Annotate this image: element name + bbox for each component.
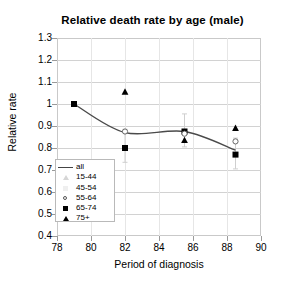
x-tick-label: 80 xyxy=(76,243,106,253)
y-tick-label: 1 xyxy=(24,99,52,109)
y-tick-label: 0.8 xyxy=(24,143,52,153)
y-tick-label: 0.7 xyxy=(24,165,52,175)
y-tick-label: 0.6 xyxy=(24,187,52,197)
legend-marker-filled-square-icon xyxy=(56,203,76,213)
y-axis-label: Relative rate xyxy=(6,62,18,182)
x-axis-label: Period of diagnosis xyxy=(57,258,261,270)
legend-marker-faint-square-icon xyxy=(56,183,76,193)
chart-title: Relative death rate by age (male) xyxy=(0,14,305,26)
x-tick-mark xyxy=(159,236,160,241)
legend-marker-open-triangle-icon xyxy=(56,172,76,182)
x-tick-label: 78 xyxy=(42,243,72,253)
legend-marker-filled-triangle-icon xyxy=(56,213,76,223)
data-point-75+ xyxy=(181,137,188,143)
x-tick-mark xyxy=(261,236,262,241)
data-point-75+ xyxy=(232,125,239,131)
x-tick-mark xyxy=(125,236,126,241)
legend-item-15-44[interactable]: 15-44 xyxy=(56,172,114,182)
y-tick-label: 0.5 xyxy=(24,209,52,219)
data-point-55-64 xyxy=(122,129,127,134)
legend-label: 15-44 xyxy=(76,173,96,181)
legend-label: 75+ xyxy=(76,214,90,222)
legend-label: 65-74 xyxy=(76,204,96,212)
y-tick-label: 1.1 xyxy=(24,77,52,87)
legend-marker-open-circle-icon xyxy=(56,193,76,203)
x-tick-mark xyxy=(57,236,58,241)
x-tick-mark xyxy=(227,236,228,241)
legend-label: 55-64 xyxy=(76,194,96,202)
x-tick-mark xyxy=(193,236,194,241)
y-tick-label: 1.2 xyxy=(24,55,52,65)
data-point-75+ xyxy=(122,88,129,94)
legend-item-45-54[interactable]: 45-54 xyxy=(56,183,114,193)
y-tick-label: 0.9 xyxy=(24,121,52,131)
legend-label: all xyxy=(76,163,84,171)
legend-label: 45-54 xyxy=(76,184,96,192)
legend-item-75plus[interactable]: 75+ xyxy=(56,213,114,223)
x-tick-mark xyxy=(91,236,92,241)
legend-item-65-74[interactable]: 65-74 xyxy=(56,203,114,213)
series-line-all xyxy=(74,104,236,150)
y-tick-label: 0.4 xyxy=(24,231,52,241)
x-tick-label: 88 xyxy=(212,243,242,253)
data-point-55-64 xyxy=(233,139,238,144)
y-tick-label: 1.3 xyxy=(24,33,52,43)
x-tick-label: 90 xyxy=(246,243,276,253)
x-tick-label: 86 xyxy=(178,243,208,253)
chart-container: Relative death rate by age (male) 0.40.5… xyxy=(0,0,305,297)
x-tick-label: 84 xyxy=(144,243,174,253)
legend-item-all[interactable]: all xyxy=(56,162,114,172)
legend-marker-line-icon xyxy=(56,162,76,172)
data-point-55-64 xyxy=(182,131,187,136)
data-point-65-74 xyxy=(233,152,239,158)
chart-legend: all15-4445-5455-6465-7475+ xyxy=(55,159,115,222)
x-tick-label: 82 xyxy=(110,243,140,253)
data-point-65-74 xyxy=(122,145,128,151)
data-point-65-74 xyxy=(71,101,77,107)
legend-item-55-64[interactable]: 55-64 xyxy=(56,193,114,203)
